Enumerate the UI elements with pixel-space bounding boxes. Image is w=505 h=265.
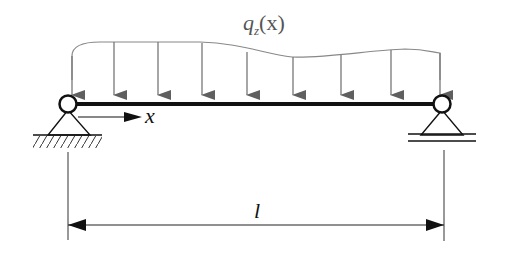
load-label: qz(x)	[243, 10, 285, 38]
x-axis-arrow: x	[78, 103, 155, 128]
dimension-arrow-right-icon	[426, 219, 444, 231]
dimension-arrow-left-icon	[68, 219, 86, 231]
span-dimension: l	[68, 150, 444, 241]
x-axis-label: x	[144, 103, 155, 128]
span-label: l	[254, 198, 260, 223]
hinge-icon	[60, 96, 77, 113]
load-envelope-curve	[72, 42, 440, 80]
beam-diagram: qz(x) x l	[0, 0, 505, 265]
hinge-icon	[434, 96, 451, 113]
